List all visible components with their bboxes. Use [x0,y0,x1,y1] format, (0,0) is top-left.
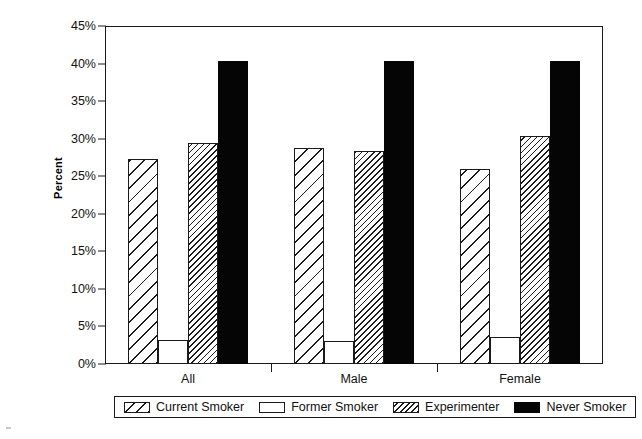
plot-area [105,26,603,364]
legend-swatch-icon [124,402,150,413]
chart-page: Percent 0%5%10%15%20%25%30%35%40%45% All… [0,0,642,439]
bar-former-smoker-female [490,337,520,364]
y-tick-label: 10% [40,283,96,296]
x-group-label-male: Male [340,372,367,386]
x-axis-separator-tick [437,364,438,372]
y-axis-tick-labels: 0%5%10%15%20%25%30%35%40%45% [38,0,96,439]
chart-legend: Current SmokerFormer SmokerExperimenterN… [114,396,636,418]
legend-swatch-icon [393,402,419,413]
bar-current-smoker-all [128,159,158,364]
legend-label: Current Smoker [156,401,244,414]
y-tick-label: 0% [40,358,96,371]
scan-artifact [6,427,11,429]
y-tick-label: 35% [40,95,96,108]
bar-experimenter-female [520,136,550,364]
bar-experimenter-male [354,151,384,364]
y-tick-label: 45% [40,20,96,33]
bar-never-smoker-female [550,61,580,364]
y-tick-label: 30% [40,132,96,145]
bar-former-smoker-male [324,341,354,364]
legend-item-current-smoker[interactable]: Current Smoker [124,401,244,414]
legend-label: Never Smoker [546,401,626,414]
legend-label: Experimenter [425,401,499,414]
bar-never-smoker-male [384,61,414,364]
y-tick-label: 15% [40,245,96,258]
x-group-label-female: Female [499,372,541,386]
x-axis-separator-tick [271,364,272,372]
bar-current-smoker-female [460,169,490,364]
legend-label: Former Smoker [291,401,378,414]
y-tick-label: 40% [40,57,96,70]
legend-swatch-icon [259,402,285,413]
bar-current-smoker-male [294,148,324,364]
x-group-label-all: All [181,372,195,386]
y-tick-label: 20% [40,208,96,221]
bar-experimenter-all [188,143,218,364]
legend-swatch-icon [514,402,540,413]
y-tick-label: 25% [40,170,96,183]
y-tick-label: 5% [40,320,96,333]
legend-item-former-smoker[interactable]: Former Smoker [259,401,378,414]
bar-former-smoker-all [158,340,188,364]
bar-never-smoker-all [218,61,248,364]
legend-item-experimenter[interactable]: Experimenter [393,401,499,414]
legend-item-never-smoker[interactable]: Never Smoker [514,401,626,414]
